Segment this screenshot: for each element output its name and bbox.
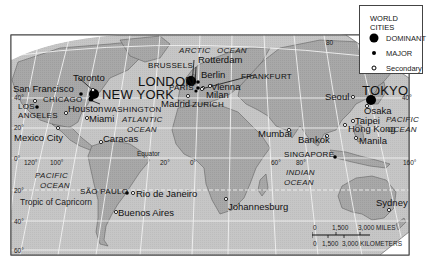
city-label-bankok: Bankok <box>298 135 330 145</box>
lat-label-40s: 40° <box>14 219 24 226</box>
scale-miles-0: 0 <box>313 224 317 231</box>
scale-bar-line <box>312 232 372 238</box>
city-label-seoul: Seoul <box>325 92 349 102</box>
lat-label-40n-east: 40° <box>402 95 412 102</box>
lon-label-120w: 120° <box>24 160 37 167</box>
ocean-label-pacific-east-ocean: OCEAN <box>387 126 417 134</box>
tropic-of-capricorn-label: Tropic of Capricorn <box>20 198 92 207</box>
ocean-label-atlantic: ATLANTIC <box>122 116 162 124</box>
city-label-san-francisco: San Francisco <box>13 84 74 94</box>
lon-label-60e: 60° <box>271 160 281 167</box>
city-label-johannesburg: Johannesburg <box>228 202 288 212</box>
scale-km-1500: 1,500 <box>322 240 338 247</box>
lat-label-40n: 40° <box>14 95 24 102</box>
city-label-berlin: Berlin <box>201 70 225 80</box>
lon-label-80-top: 80 <box>326 40 333 47</box>
city-label-sydney: Sydney <box>376 198 408 208</box>
scale-km-0: 0 <box>313 240 317 247</box>
ocean-label-arctic-ocean: OCEAN <box>217 47 247 55</box>
lat-label-60s: 60° <box>14 248 24 255</box>
scale-miles-1500: 1,500 <box>332 224 348 231</box>
city-label-zurich: ZURICH <box>192 101 224 109</box>
lat-label-0: 0° <box>14 156 20 163</box>
scale-bar: 0 1,500 3,000 MILES 0 1,500 3,000 KILOME… <box>312 224 407 250</box>
small-filled-dot-icon <box>372 51 376 55</box>
city-label-los: LOS <box>18 103 35 111</box>
scale-miles-3000: 3,000 MILES <box>358 224 396 231</box>
legend-item-dominant: DOMINANT <box>360 32 424 44</box>
city-label-mexico-city: Mexico City <box>14 133 63 143</box>
legend-item-secondary: Secondary <box>360 62 424 74</box>
ocean-label-pacific-west: PACIFIC <box>35 172 68 180</box>
ocean-label-indian: INDIAN <box>286 169 315 177</box>
city-label-mumbai: Mumbai <box>258 129 292 139</box>
large-filled-dot-icon <box>370 34 379 43</box>
city-label-sao-paulo: SÃO PAULO <box>80 188 128 196</box>
city-label-toronto: Toronto <box>73 73 105 83</box>
hollow-circle-icon <box>372 66 377 71</box>
lon-label-0: 0° <box>190 160 196 167</box>
city-label-brussels: BRUSSELS <box>148 62 193 70</box>
lon-label-80e: 80° <box>296 160 306 167</box>
scale-km-3000: 3,000 KILOMETERS <box>342 240 402 247</box>
city-label-rio: Rio de Janeiro <box>136 189 197 199</box>
lat-label-20s: 20° <box>14 188 24 195</box>
city-label-manila: Manila <box>359 136 387 146</box>
city-label-milan: Milan <box>206 90 229 100</box>
ocean-label-pacific-east: PACIFIC <box>386 116 419 124</box>
city-label-buenos-aires: Buenos Aires <box>118 208 174 218</box>
ocean-label-atlantic-ocean: OCEAN <box>127 126 157 134</box>
city-label-frankfurt: FRANKFURT <box>241 73 292 81</box>
ocean-label-arctic: ARCTIC <box>179 47 211 55</box>
city-label-paris: PARIS <box>169 84 194 92</box>
lon-label-160e: 160° <box>403 160 416 167</box>
city-label-rotterdam: Rotterdam <box>198 55 242 65</box>
lon-label-100w: 100° <box>50 160 63 167</box>
city-label-caracas: Caracas <box>103 134 138 144</box>
ocean-label-pacific-west-ocean: OCEAN <box>40 182 70 190</box>
lon-label-20w: 20° <box>160 160 170 167</box>
lat-label-20n: 20° <box>14 125 24 132</box>
equator-label: Equator <box>137 151 160 158</box>
ocean-label-indian-ocean: OCEAN <box>284 179 314 187</box>
city-label-singapore: SINGAPORE <box>284 151 334 159</box>
legend: WORLD CITIES DOMINANT MAJOR Secondary <box>359 5 423 74</box>
legend-item-major: MAJOR <box>360 47 424 59</box>
legend-title: WORLD CITIES <box>370 14 422 32</box>
city-label-madrid: Madrid <box>161 99 190 109</box>
city-label-angeles: ANGELES <box>18 112 58 120</box>
city-label-miami: Miami <box>89 114 114 124</box>
